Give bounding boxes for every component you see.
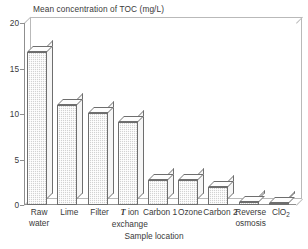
bar-side-face [228, 175, 234, 199]
italic-prefix: T [121, 208, 126, 217]
bar[interactable] [118, 116, 138, 205]
x-axis-tick-label-line2: exchange [109, 219, 151, 230]
bar[interactable] [239, 196, 259, 205]
bar-front-face [269, 203, 289, 205]
bar[interactable] [269, 197, 289, 205]
bar[interactable] [57, 99, 77, 205]
bar-front-face [57, 105, 77, 205]
bar-side-face [47, 40, 53, 199]
bar-side-face [138, 110, 144, 199]
bar[interactable] [88, 107, 108, 205]
bar-side-face [108, 101, 114, 199]
bar-front-face [88, 113, 108, 205]
bar-top-face [239, 196, 265, 202]
plot-area [24, 23, 296, 205]
y-axis-tick-mark [20, 205, 24, 206]
chart-title: Mean concentration of TOC (mg/L) [33, 4, 164, 14]
bar[interactable] [178, 174, 198, 205]
bar[interactable] [27, 46, 47, 205]
bar-top-face [269, 197, 295, 203]
subscript: 2 [286, 211, 290, 218]
bar-front-face [208, 187, 228, 205]
bar[interactable] [208, 181, 228, 205]
x-axis-tick-label-line2: water [18, 218, 60, 229]
frame-connector-bottom-right [296, 199, 303, 206]
x-axis-title: Sample location [0, 231, 308, 241]
chart-canvas: Mean concentration of TOC (mg/L) 0510152… [0, 0, 308, 249]
bar-front-face [118, 122, 138, 205]
bar-front-face [239, 202, 259, 205]
bar[interactable] [148, 174, 168, 205]
bar-front-face [178, 180, 198, 205]
bar-front-face [27, 52, 47, 205]
bar-side-face [77, 93, 83, 199]
x-axis-tick-label: ClO2 [260, 207, 302, 220]
bar-front-face [148, 180, 168, 205]
